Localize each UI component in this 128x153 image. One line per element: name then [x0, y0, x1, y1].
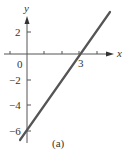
y-axis-arrow-icon — [25, 16, 30, 24]
x-axis-arrow-icon — [106, 52, 114, 57]
x-axis-label: x — [116, 47, 122, 59]
y-tick-label-2: 2 — [15, 26, 21, 38]
data-line — [20, 12, 110, 140]
y-tick-label-neg6: −6 — [9, 125, 21, 137]
y-tick-label-neg2: −2 — [9, 74, 21, 86]
y-axis-label: y — [23, 2, 29, 14]
origin-label: 0 — [17, 58, 23, 70]
y-tick-label-neg4: −4 — [9, 99, 21, 111]
line-chart: x y 2 0 −2 −4 −6 3 (a) — [0, 0, 128, 153]
caption: (a) — [52, 137, 65, 150]
y-ticks — [27, 32, 31, 131]
x-tick-label-3: 3 — [78, 57, 84, 69]
